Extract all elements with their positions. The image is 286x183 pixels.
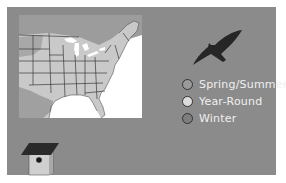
legend: Spring/Summer Year-Round Winter — [182, 77, 286, 128]
legend-label: Year-Round — [199, 95, 262, 108]
bird-silhouette-icon — [185, 27, 245, 67]
swatch-spring-summer-icon — [182, 79, 193, 90]
swatch-year-round-icon — [182, 96, 193, 107]
legend-item-year-round: Year-Round — [182, 94, 286, 109]
swatch-winter-icon — [182, 113, 193, 124]
legend-label: Spring/Summer — [199, 78, 286, 91]
range-map-panel: Spring/Summer Year-Round Winter — [7, 7, 276, 175]
legend-item-winter: Winter — [182, 111, 286, 126]
birdhouse-icon — [19, 137, 59, 177]
range-map — [19, 15, 142, 118]
legend-label: Winter — [199, 112, 236, 125]
legend-item-spring-summer: Spring/Summer — [182, 77, 286, 92]
eastern-us-map-icon — [19, 15, 142, 118]
